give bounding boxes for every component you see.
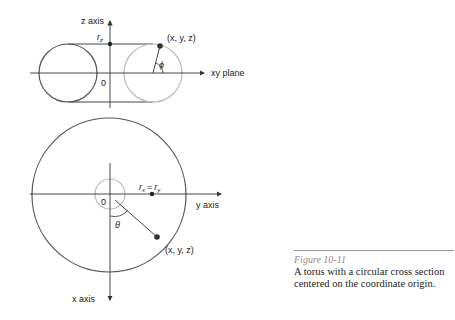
- radius-dot: [150, 192, 154, 196]
- rz-dot: [108, 42, 112, 46]
- side-view-diagram: z axis xy plane rz 0 (x, y, z) ϕ: [30, 16, 245, 108]
- x-axis-label: x axis: [72, 294, 96, 304]
- figure-caption: Figure 10-11 A torus with a circular cro…: [294, 250, 454, 290]
- origin-label-bottom: 0: [101, 197, 106, 207]
- caption-text: A torus with a circular cross section ce…: [294, 266, 454, 290]
- theta-angle-arc: [110, 210, 128, 216]
- theta-label: θ: [115, 220, 120, 230]
- point-dot-top: [157, 43, 163, 49]
- point-dot-bottom: [154, 234, 160, 240]
- theta-radius-line: [115, 200, 157, 237]
- xy-plane-label: xy plane: [211, 68, 245, 78]
- radius-label: rx=ry: [139, 182, 161, 193]
- figure-number: Figure 10-11: [294, 254, 454, 266]
- y-axis-label: y axis: [196, 200, 220, 210]
- rz-label: rz: [97, 32, 103, 43]
- phi-label: ϕ: [159, 60, 164, 70]
- torus-outer-circle: [32, 118, 186, 272]
- point-label-bottom: (x, y, z): [165, 245, 194, 255]
- caption-divider: [294, 250, 454, 251]
- point-label-top: (x, y, z): [167, 33, 196, 43]
- top-view-diagram: rx=ry 0 y axis x axis θ (x, y, z): [30, 118, 221, 304]
- origin-label-top: 0: [101, 78, 106, 88]
- z-axis-label: z axis: [81, 16, 105, 26]
